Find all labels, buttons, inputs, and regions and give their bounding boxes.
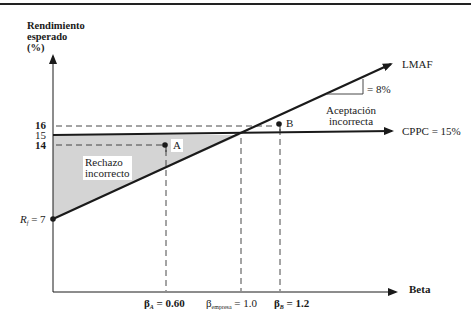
slope-label: = 8% [367,84,391,95]
y-axis-title: Rendimiento esperado (%) [27,20,87,53]
x-tick-beta-b: βB = 1.2 [274,298,309,310]
rf-label: Rf = 7 [20,214,46,226]
cppc-label: CPPC = 15% [402,126,461,137]
point-a [162,142,168,148]
point-b [276,121,282,127]
y-tick-14: 14 [35,140,46,151]
point-a-label: A [171,139,183,152]
incorrect-acceptance-label: Aceptación incorrecta [326,105,376,127]
x-tick-beta-empresa: βempresa = 1.0 [206,298,257,310]
lmaf-label: LMAF [402,59,433,70]
incorrect-rejection-label: Rechazo incorrecto [83,156,132,180]
cppc-line [53,131,392,135]
x-tick-beta-a: βA = 0.60 [144,298,185,310]
point-rf [50,216,56,222]
point-b-label: B [286,118,293,129]
x-axis-title: Beta [409,284,430,295]
